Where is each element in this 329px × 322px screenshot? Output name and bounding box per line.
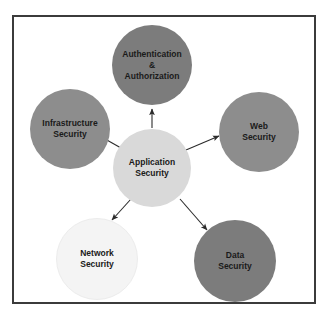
- node-label-line2: &: [122, 60, 182, 71]
- edge-to-network: [112, 199, 131, 220]
- node-label-line2: Security: [129, 168, 175, 179]
- node-label-line1: Web: [242, 121, 276, 132]
- diagram-canvas: Authentication & Authorization Infrastru…: [0, 0, 329, 322]
- node-data-security[interactable]: Data Security: [194, 220, 276, 302]
- edge-to-data: [180, 199, 207, 230]
- diagram-panel: Authentication & Authorization Infrastru…: [12, 15, 316, 304]
- node-infrastructure-security[interactable]: Infrastructure Security: [30, 89, 110, 169]
- node-label-line2: Security: [80, 259, 114, 270]
- node-label-line1: Application: [129, 157, 175, 168]
- node-label-line1: Data: [218, 250, 252, 261]
- edge-to-web: [186, 136, 219, 150]
- node-label-line2: Security: [218, 261, 252, 272]
- node-label-line1: Network: [80, 248, 114, 259]
- node-label-line2: Security: [42, 129, 97, 140]
- node-label-line1: Infrastructure: [42, 118, 97, 129]
- node-label-line3: Authorization: [122, 71, 182, 82]
- node-label-line2: Security: [242, 132, 276, 143]
- node-network-security[interactable]: Network Security: [56, 218, 138, 300]
- node-label-line1: Authentication: [122, 49, 182, 60]
- cropped-caption-text: [0, 0, 329, 3]
- node-authentication-authorization[interactable]: Authentication & Authorization: [112, 25, 192, 105]
- node-web-security[interactable]: Web Security: [219, 92, 299, 172]
- node-application-security[interactable]: Application Security: [113, 129, 191, 207]
